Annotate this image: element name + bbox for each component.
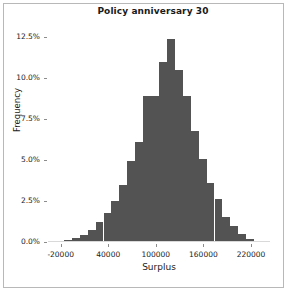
x-tick-mark [251, 244, 252, 247]
x-axis-label: Surplus [48, 262, 270, 272]
x-tick-mark [108, 244, 109, 247]
x-tick-mark [61, 244, 62, 247]
x-tick-label: 220000 [221, 250, 281, 259]
x-tick-mark [203, 244, 204, 247]
x-axis: -2000040000100000160000220000 [0, 0, 287, 291]
x-tick-mark [156, 244, 157, 247]
histogram-figure: Policy anniversary 30 Frequency 0.0%2.5%… [0, 0, 287, 291]
screenshot-root: Policy anniversary 30 Frequency 0.0%2.5%… [0, 0, 287, 291]
